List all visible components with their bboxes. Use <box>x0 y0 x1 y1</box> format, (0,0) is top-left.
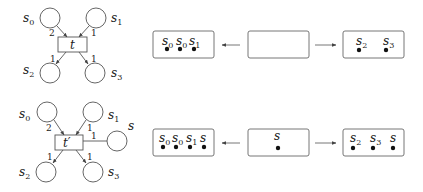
place-s0 <box>40 8 60 28</box>
tokens-bottom-mid: s <box>274 129 280 150</box>
arc-weight: 1 <box>87 152 93 162</box>
arc-weight: 1 <box>47 152 53 162</box>
place-s0 <box>37 102 57 122</box>
svg-text:s: s <box>200 131 206 145</box>
label-s3: s3 <box>111 66 122 82</box>
marking-box-mid <box>248 31 309 58</box>
place-s3 <box>83 162 103 182</box>
label-s3: s3 <box>108 165 119 181</box>
label-s1: s1 <box>111 11 122 27</box>
arc-weight: 2 <box>46 123 52 133</box>
transition-label: t <box>70 38 75 52</box>
svg-text:s2: s2 <box>350 131 361 147</box>
label-s1: s1 <box>108 108 119 124</box>
tokens-bottom-post: s2 s3 s <box>350 131 396 150</box>
place-s1 <box>83 102 103 122</box>
tokens-bottom-pre: s0 s0 s1 s <box>159 131 206 149</box>
svg-text:s: s <box>274 129 280 143</box>
label-s0: s0 <box>19 107 30 123</box>
label-s: s <box>128 119 134 133</box>
place-s2 <box>40 63 60 83</box>
svg-text:s3: s3 <box>370 131 381 147</box>
tokens-top-post: s2 s3 <box>356 34 394 52</box>
svg-text:s0: s0 <box>172 131 183 147</box>
svg-text:s2: s2 <box>356 34 367 50</box>
place-s1 <box>86 8 106 28</box>
svg-text:s1: s1 <box>186 131 197 147</box>
tokens-top-pre: s0 s0 s1 <box>162 34 200 51</box>
arc-weight: 1 <box>91 54 97 64</box>
label-s0: s0 <box>23 11 34 27</box>
arc-weight: 1 <box>50 54 56 64</box>
svg-text:s: s <box>390 131 396 145</box>
arc-weight: 2 <box>49 28 55 38</box>
place-s3 <box>85 63 105 83</box>
place-s <box>107 131 127 151</box>
svg-text:s0: s0 <box>159 131 170 147</box>
petri-net-diagram: s0 s1 s2 s3 t 2 1 1 1 s0 s0 s1 s2 s3 <box>0 0 423 192</box>
arc-weight: 1 <box>91 28 97 38</box>
arc-weight: 1 <box>91 131 97 141</box>
svg-text:s3: s3 <box>383 34 394 50</box>
transition-label: t′ <box>63 136 71 150</box>
marking-box-post <box>343 31 404 58</box>
label-s2: s2 <box>23 63 34 79</box>
place-s2 <box>36 162 56 182</box>
label-s2: s2 <box>19 165 30 181</box>
